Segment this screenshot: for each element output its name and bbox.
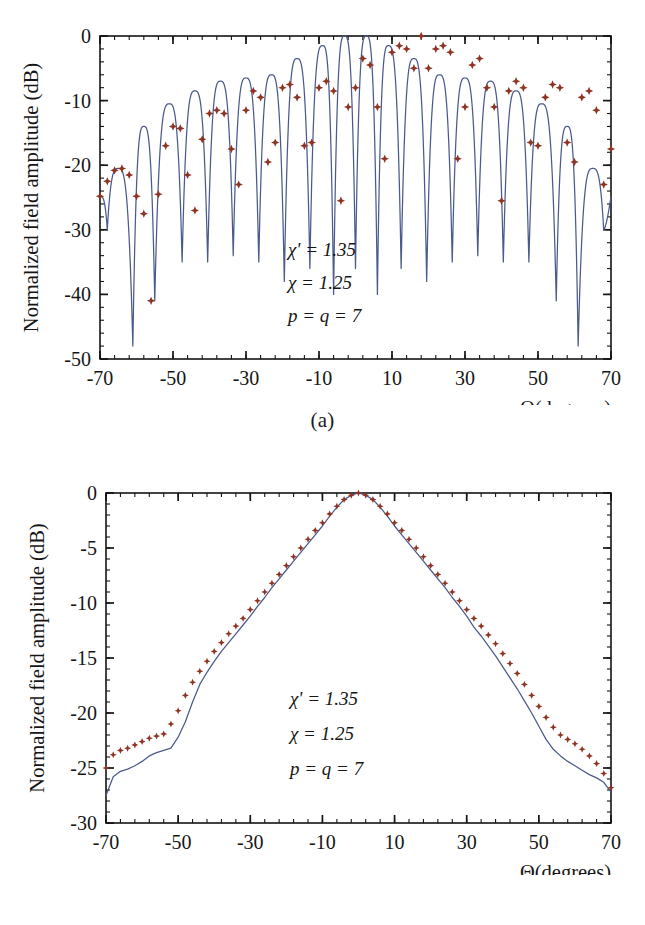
data-marker xyxy=(366,61,374,69)
y-tick-label: -5 xyxy=(80,537,97,559)
data-group xyxy=(96,32,615,346)
data-marker xyxy=(175,707,182,714)
y-tick-label: 0 xyxy=(87,482,97,504)
y-tick-label: -10 xyxy=(70,592,97,614)
data-marker xyxy=(384,510,391,517)
data-marker xyxy=(564,736,571,743)
data-marker xyxy=(283,562,290,569)
data-marker xyxy=(541,93,549,101)
data-marker xyxy=(103,177,111,185)
data-marker xyxy=(398,527,405,534)
data-marker xyxy=(293,93,301,101)
figure-panel-a: -70-50-30-10103050700-10-20-30-40-50Θ(de… xyxy=(0,0,645,455)
plot-annotation: χ' = 1.35 xyxy=(286,239,356,260)
data-marker xyxy=(147,297,155,305)
data-marker xyxy=(485,631,492,638)
subfigure-a-caption: (a) xyxy=(0,408,645,433)
data-marker xyxy=(446,48,454,56)
data-marker xyxy=(424,64,432,72)
plot-b-svg: -70-50-30-10103050700-5-10-15-20-25-30Θ(… xyxy=(0,455,645,875)
data-marker xyxy=(579,746,586,753)
data-marker xyxy=(225,630,232,637)
data-marker xyxy=(220,109,228,117)
data-marker xyxy=(586,752,593,759)
data-marker xyxy=(395,41,403,49)
data-marker xyxy=(461,103,469,111)
x-tick-label: 30 xyxy=(457,831,477,853)
data-marker xyxy=(271,138,279,146)
annotation-group: χ' = 1.35χ = 1.25p = q = 7 xyxy=(286,239,363,326)
x-tick-label: 70 xyxy=(601,831,621,853)
data-marker xyxy=(402,45,410,53)
data-marker xyxy=(442,580,449,587)
x-tick-label: -50 xyxy=(165,831,192,853)
data-marker xyxy=(600,770,607,777)
plot-annotation: p = q = 7 xyxy=(286,305,363,326)
y-tick-label: -40 xyxy=(64,283,91,305)
plot-annotation: χ' = 1.35 xyxy=(288,688,358,709)
plot-a-container: -70-50-30-10103050700-10-20-30-40-50Θ(de… xyxy=(0,0,645,405)
data-marker xyxy=(359,54,367,62)
data-marker xyxy=(198,135,206,143)
x-tick-label: -70 xyxy=(93,831,120,853)
data-marker xyxy=(232,623,239,630)
x-tick-label: -30 xyxy=(237,831,264,853)
data-marker xyxy=(556,83,564,91)
data-marker xyxy=(146,735,153,742)
data-marker xyxy=(125,171,133,179)
data-marker xyxy=(110,166,118,174)
data-marker xyxy=(377,503,384,510)
data-marker xyxy=(534,142,542,150)
data-marker xyxy=(256,93,264,101)
plot-a-svg: -70-50-30-10103050700-10-20-30-40-50Θ(de… xyxy=(0,0,645,405)
plot-b-container: -70-50-30-10103050700-5-10-15-20-25-30Θ(… xyxy=(0,455,645,875)
data-marker xyxy=(427,562,434,569)
data-marker xyxy=(355,490,362,497)
y-tick-label: -15 xyxy=(70,647,97,669)
data-marker xyxy=(571,740,578,747)
data-marker xyxy=(535,703,542,710)
data-marker xyxy=(548,80,556,88)
data-marker xyxy=(118,164,126,172)
data-marker xyxy=(578,93,586,101)
y-tick-label: -20 xyxy=(64,154,91,176)
x-tick-label: 70 xyxy=(601,367,621,389)
data-marker xyxy=(160,730,167,737)
data-marker xyxy=(391,519,398,526)
data-marker xyxy=(420,553,427,560)
data-marker xyxy=(139,738,146,745)
data-marker xyxy=(514,670,521,677)
data-marker xyxy=(242,106,250,114)
plot-annotation: p = q = 7 xyxy=(288,758,365,779)
axis-group: -70-50-30-10103050700-10-20-30-40-50 xyxy=(64,25,621,389)
data-marker xyxy=(550,724,557,731)
plot-annotation: χ = 1.25 xyxy=(286,272,352,293)
data-marker xyxy=(162,142,170,150)
data-marker xyxy=(512,77,520,85)
data-marker xyxy=(218,639,225,646)
data-marker xyxy=(326,510,333,517)
data-marker xyxy=(132,192,140,200)
data-marker xyxy=(333,503,340,510)
data-marker xyxy=(337,197,345,205)
x-tick-label: -30 xyxy=(233,367,260,389)
data-marker xyxy=(388,48,396,56)
data-marker xyxy=(329,87,337,95)
y-tick-label: -50 xyxy=(64,348,91,370)
plot-annotation: χ = 1.25 xyxy=(288,723,354,744)
data-marker xyxy=(468,61,476,69)
x-tick-label: -70 xyxy=(87,367,114,389)
data-marker xyxy=(483,83,491,91)
y-tick-label: -30 xyxy=(64,219,91,241)
data-marker xyxy=(103,765,110,772)
measured-markers xyxy=(103,490,615,792)
data-marker xyxy=(308,138,316,146)
data-marker xyxy=(417,32,425,40)
data-marker xyxy=(528,692,535,699)
y-tick-label: 0 xyxy=(81,25,91,47)
data-marker xyxy=(117,747,124,754)
x-tick-label: 10 xyxy=(382,367,402,389)
y-axis-title: Normalized field amplitude (dB) xyxy=(26,523,49,792)
data-marker xyxy=(410,64,418,72)
data-marker xyxy=(434,571,441,578)
